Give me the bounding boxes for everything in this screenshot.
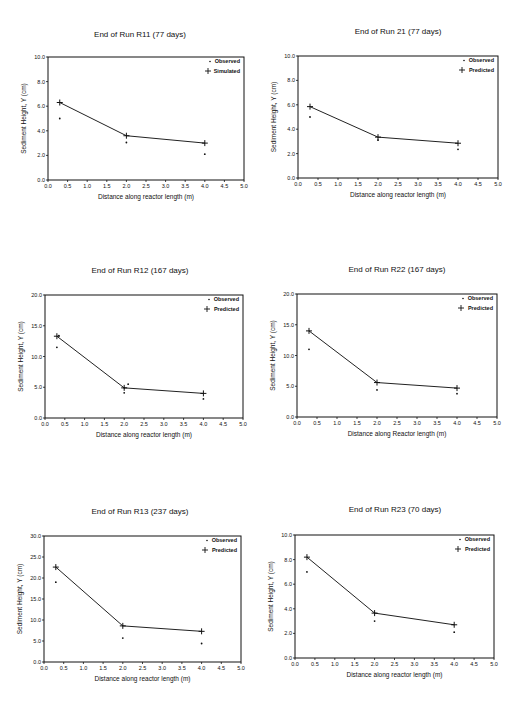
predicted-line <box>307 557 454 625</box>
y-axis-label: Sediment Height, Y (cm) <box>267 561 275 632</box>
y-tick-label: 10.0 <box>281 532 292 538</box>
x-tick-label: 3.5 <box>430 661 438 667</box>
observed-dot <box>306 571 308 573</box>
x-tick-label: 1.0 <box>331 661 339 667</box>
plot-frame <box>295 535 494 658</box>
legend-observed-marker <box>459 539 461 541</box>
y-tick-label: 4.0 <box>284 606 292 612</box>
x-tick-label: 1.5 <box>351 661 359 667</box>
x-tick-label: 2.0 <box>371 661 379 667</box>
y-tick-label: 6.0 <box>284 581 292 587</box>
x-tick-label: 5.0 <box>490 661 498 667</box>
legend-observed-label: Observed <box>465 536 490 542</box>
y-tick-label: 8.0 <box>284 557 292 563</box>
x-tick-label: 0.5 <box>311 661 319 667</box>
y-tick-label: 0.0 <box>284 655 292 661</box>
legend-cross-marker <box>455 546 461 552</box>
x-tick-label: 2.5 <box>391 661 399 667</box>
y-tick-label: 2.0 <box>284 630 292 636</box>
x-axis-label: Distance along reactor length (m) <box>346 671 442 679</box>
x-tick-label: 0.0 <box>291 661 299 667</box>
x-tick-label: 3.0 <box>411 661 419 667</box>
legend: ObservedPredicted <box>455 536 490 552</box>
observed-dot <box>453 631 455 633</box>
x-tick-label: 4.5 <box>470 661 478 667</box>
observed-dot <box>374 620 376 622</box>
x-tick-label: 4.0 <box>450 661 458 667</box>
cross-marker <box>451 622 457 628</box>
legend-predicted-label: Predicted <box>465 546 490 552</box>
plot-area: 0.00.51.01.52.02.53.03.54.04.55.00.02.04… <box>0 0 517 727</box>
